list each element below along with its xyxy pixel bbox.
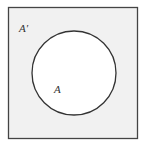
complement-label: A′ — [18, 22, 29, 34]
venn-diagram: A′ A — [0, 0, 150, 149]
set-a-circle — [32, 31, 116, 115]
set-a-label: A — [53, 83, 61, 95]
